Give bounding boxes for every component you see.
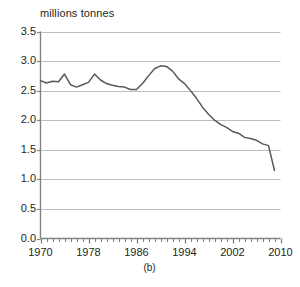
y-tick-label-wrap: 3.5 [0,26,36,37]
y-tick-label: 2.5 [2,85,36,96]
chart-figure: millions tonnes 0.00.51.01.52.02.53.03.5… [0,0,299,287]
y-tick-label: 1.0 [2,173,36,184]
x-tick-label: 1970 [21,247,61,258]
y-tick-label-wrap: 1.0 [0,173,36,184]
y-tick-label-wrap: 3.0 [0,55,36,66]
y-tick-label-wrap: 0.5 [0,203,36,214]
y-tick-label-wrap: 0.0 [0,233,36,244]
x-tick-label: 1986 [117,247,157,258]
plot-area [0,0,299,287]
data-series-line [41,66,275,171]
x-tick-label: 1994 [165,247,205,258]
gridlines-group [41,33,281,210]
y-tick-label: 1.5 [2,144,36,155]
y-tick-label: 2.0 [2,114,36,125]
y-tick-label-wrap: 2.5 [0,85,36,96]
y-tick-label-wrap: 1.5 [0,144,36,155]
y-tick-label: 0.5 [2,203,36,214]
x-tick-label: 1978 [69,247,109,258]
x-tick-label: 2010 [261,247,300,258]
y-tick-label: 3.5 [2,26,36,37]
y-tick-label: 0.0 [2,233,36,244]
y-tick-label-wrap: 2.0 [0,114,36,125]
y-tick-label: 3.0 [2,55,36,66]
figure-caption: (b) [0,262,299,273]
x-tick-label: 2002 [213,247,253,258]
chart-svg [0,0,299,287]
